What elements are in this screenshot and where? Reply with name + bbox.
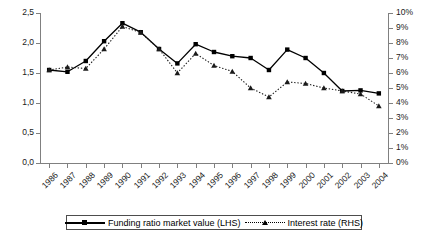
legend-triangle-dotted-line-icon	[245, 218, 285, 227]
x-axis-tick	[67, 163, 68, 168]
y-axis-left-tick-label: 0,5	[8, 128, 34, 137]
y-axis-left-tick-label: 1,0	[8, 98, 34, 107]
data-point-marker	[285, 47, 289, 51]
y-axis-right-tick-label: 2%	[396, 128, 426, 137]
data-point-marker	[193, 51, 199, 56]
x-axis-tick	[287, 163, 288, 168]
data-point-marker	[193, 42, 197, 46]
legend-label-interest-rate: Interest rate (RHS)	[288, 218, 364, 228]
x-axis-tick	[361, 163, 362, 168]
series-layer	[40, 13, 388, 163]
legend-label-funding-ratio: Funding ratio market value (LHS)	[108, 218, 241, 228]
data-point-marker	[230, 54, 234, 58]
data-point-marker	[175, 61, 179, 65]
y-axis-right-tick	[388, 163, 393, 164]
y-axis-right-tick	[388, 103, 393, 104]
x-axis-tick	[251, 163, 252, 168]
data-point-marker	[230, 69, 236, 74]
legend-item-funding-ratio: Funding ratio market value (LHS)	[65, 218, 241, 228]
y-axis-right-tick-label: 9%	[396, 23, 426, 32]
data-point-marker	[267, 68, 271, 72]
data-point-marker	[376, 103, 382, 108]
legend-item-interest-rate: Interest rate (RHS)	[245, 218, 364, 228]
plot-area	[40, 13, 388, 163]
y-axis-right-tick	[388, 58, 393, 59]
x-axis-tick	[214, 163, 215, 168]
y-axis-right-tick-label: 0%	[396, 158, 426, 167]
data-point-marker	[211, 63, 217, 68]
y-axis-left-tick	[36, 163, 41, 164]
data-point-marker	[377, 91, 381, 95]
x-axis-tick	[269, 163, 270, 168]
y-axis-right-tick	[388, 118, 393, 119]
data-point-marker	[303, 56, 307, 60]
data-point-marker	[322, 71, 326, 75]
data-point-marker	[65, 70, 69, 74]
data-point-marker	[248, 56, 252, 60]
x-axis-tick	[324, 163, 325, 168]
series-line-funding-ratio	[49, 23, 379, 93]
x-axis-tick	[379, 163, 380, 168]
data-point-marker	[284, 79, 290, 84]
data-point-marker	[303, 81, 309, 86]
x-axis-tick	[104, 163, 105, 168]
y-axis-right-tick-label: 1%	[396, 143, 426, 152]
y-axis-right-tick-label: 10%	[396, 8, 426, 17]
y-axis-right-tick-label: 5%	[396, 83, 426, 92]
data-point-marker	[84, 59, 88, 63]
data-point-marker	[101, 46, 107, 51]
x-axis-tick	[196, 163, 197, 168]
x-axis-tick	[122, 163, 123, 168]
x-axis-tick	[159, 163, 160, 168]
y-axis-right-tick	[388, 43, 393, 44]
y-axis-right-tick	[388, 88, 393, 89]
y-axis-left-tick-label: 0,0	[8, 158, 34, 167]
y-axis-right-tick-label: 3%	[396, 113, 426, 122]
chart-container: 0,00,51,01,52,02,5 0%1%2%3%4%5%6%7%8%9%1…	[0, 0, 428, 245]
y-axis-left-tick-label: 2,5	[8, 8, 34, 17]
x-axis-tick	[342, 163, 343, 168]
x-axis-tick	[49, 163, 50, 168]
x-axis-tick	[306, 163, 307, 168]
y-axis-right-tick-label: 8%	[396, 38, 426, 47]
y-axis-right-tick-label: 7%	[396, 53, 426, 62]
y-axis-right-tick	[388, 133, 393, 134]
y-axis-left-tick-label: 1,5	[8, 68, 34, 77]
x-axis-tick	[86, 163, 87, 168]
y-axis-left-tick-label: 2,0	[8, 38, 34, 47]
data-point-marker	[321, 85, 327, 90]
data-point-marker	[102, 39, 106, 43]
data-point-marker	[212, 50, 216, 54]
y-axis-right-tick-label: 6%	[396, 68, 426, 77]
x-axis-tick	[232, 163, 233, 168]
x-axis-tick	[177, 163, 178, 168]
chart-legend: Funding ratio market value (LHS) Interes…	[66, 215, 362, 230]
y-axis-right-tick	[388, 28, 393, 29]
legend-square-solid-line-icon	[65, 218, 105, 227]
y-axis-right-tick	[388, 13, 393, 14]
y-axis-right-tick	[388, 73, 393, 74]
x-axis-tick	[141, 163, 142, 168]
y-axis-right-tick	[388, 148, 393, 149]
y-axis-right-tick-label: 4%	[396, 98, 426, 107]
